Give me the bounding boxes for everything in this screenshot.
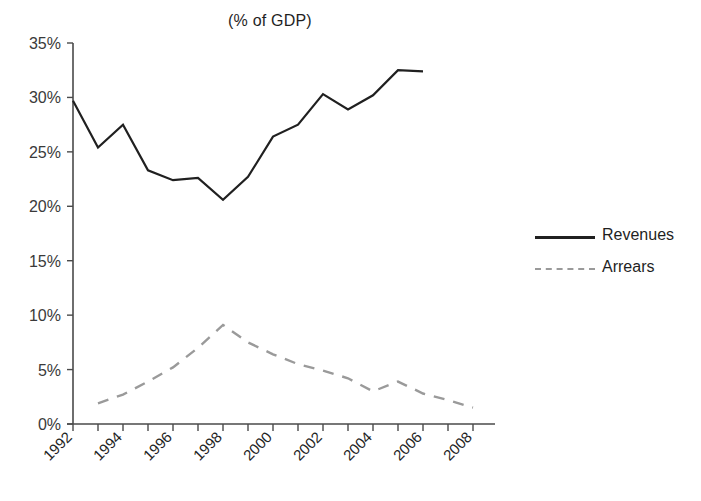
y-tick-label: 5% xyxy=(38,362,61,379)
x-tick-label: 1992 xyxy=(40,428,76,464)
y-tick-label: 35% xyxy=(29,35,61,52)
y-tick-label: 20% xyxy=(29,198,61,215)
chart-figure: (% of GDP) 0%5%10%15%20%25%30%35%1992199… xyxy=(0,0,701,501)
chart-plot-area: 0%5%10%15%20%25%30%35%199219941996199820… xyxy=(0,0,701,501)
x-tick-label: 2002 xyxy=(290,428,326,464)
x-tick-label: 2000 xyxy=(240,428,276,464)
x-tick-label: 2008 xyxy=(440,428,476,464)
x-tick-label: 2006 xyxy=(390,428,426,464)
y-tick-label: 10% xyxy=(29,307,61,324)
legend-revenues-label: Revenues xyxy=(602,226,674,244)
legend-revenues-line-icon xyxy=(535,236,595,239)
x-tick-label: 1998 xyxy=(190,428,226,464)
y-tick-label: 15% xyxy=(29,253,61,270)
series-line-revenues xyxy=(73,70,423,200)
y-tick-label: 0% xyxy=(38,416,61,433)
series-line-arrears xyxy=(98,325,473,408)
x-tick-label: 1994 xyxy=(90,428,126,464)
legend-arrears-line-icon xyxy=(535,268,595,270)
y-tick-label: 25% xyxy=(29,144,61,161)
x-tick-label: 2004 xyxy=(340,428,376,464)
y-tick-label: 30% xyxy=(29,89,61,106)
legend-arrears-label: Arrears xyxy=(602,258,654,276)
x-tick-label: 1996 xyxy=(140,428,176,464)
